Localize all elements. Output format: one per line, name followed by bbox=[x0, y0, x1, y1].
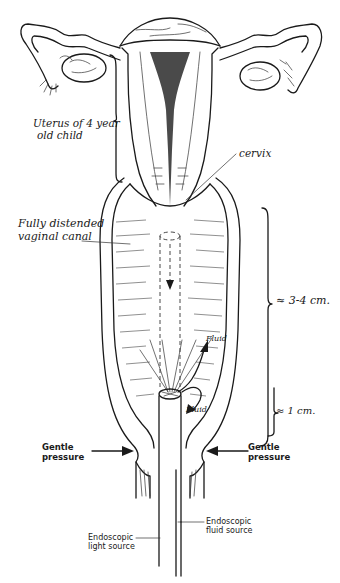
cervix-pointer bbox=[186, 154, 236, 200]
labia bbox=[136, 462, 204, 498]
endoscope-view-path bbox=[140, 232, 212, 392]
length-lower-label: ≈ 1 cm. bbox=[276, 405, 315, 417]
right-fallopian-tube bbox=[220, 24, 322, 93]
vaginal-canal-label-line1: Fully distended bbox=[18, 218, 104, 231]
fluid-flow-arrows bbox=[178, 340, 208, 414]
fluid-source-label-line2: fluid source bbox=[206, 526, 253, 535]
light-source-label-line1: Endoscopic bbox=[88, 533, 135, 542]
uterus-label-line2: old child bbox=[33, 129, 120, 141]
fluid-lower-label: Fluid bbox=[186, 405, 207, 414]
bracket-3-4cm bbox=[260, 208, 272, 446]
right-ovary bbox=[240, 62, 280, 90]
pressure-right-label-line2: pressure bbox=[248, 453, 290, 463]
length-upper-label: ≈ 3-4 cm. bbox=[276, 295, 330, 308]
uterus-label-line1: Uterus of 4 year bbox=[33, 117, 120, 129]
anatomical-diagram bbox=[0, 0, 340, 583]
light-source-label: Endoscopic light source bbox=[88, 533, 135, 551]
endoscope bbox=[159, 389, 181, 576]
pressure-left-label: Gentle pressure bbox=[42, 443, 84, 463]
uterus bbox=[120, 18, 220, 206]
pressure-arrows bbox=[92, 446, 248, 456]
down-arrow-icon bbox=[166, 280, 174, 290]
fluid-source-label-line1: Endoscopic bbox=[206, 517, 253, 526]
left-fallopian-tube bbox=[21, 24, 120, 95]
pressure-arrow-left-icon bbox=[122, 446, 134, 456]
fluid-source-label: Endoscopic fluid source bbox=[206, 517, 253, 535]
pressure-arrow-right-icon bbox=[206, 446, 218, 456]
vaginal-canal-label: Fully distended vaginal canal bbox=[18, 218, 104, 243]
light-source-label-line2: light source bbox=[88, 542, 135, 551]
fluid-upper-label: Fluid bbox=[206, 334, 227, 343]
uterus-label: Uterus of 4 year old child bbox=[33, 117, 120, 141]
vaginal-canal-label-line2: vaginal canal bbox=[18, 231, 104, 244]
pressure-right-label: Gentle pressure bbox=[248, 443, 290, 463]
pressure-left-label-line2: pressure bbox=[42, 453, 84, 463]
left-ovary bbox=[60, 54, 106, 82]
cervix-label: cervix bbox=[239, 147, 271, 159]
